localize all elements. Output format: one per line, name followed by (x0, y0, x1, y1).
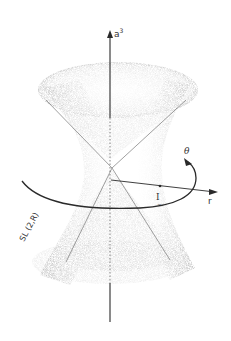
identity-point (159, 185, 162, 188)
hyperboloid-diagram: a3 r I ~ θ SL (2,R) (0, 0, 231, 341)
theta-label: θ (184, 146, 190, 156)
r-axis-label: r (208, 196, 212, 206)
a3-axis-label: a3 (114, 27, 124, 39)
group-label: SL (2,R) (18, 211, 41, 243)
arrowhead-up-icon (107, 30, 113, 38)
arrowhead-right-icon (209, 189, 218, 195)
